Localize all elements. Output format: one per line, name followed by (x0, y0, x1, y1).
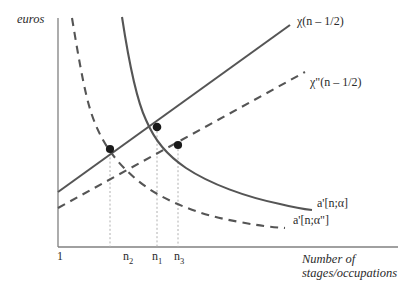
xtick-base-n1: n (152, 249, 158, 263)
curve-label-a-prime-alpha: a'[n;α] (317, 197, 348, 210)
x-axis-title: Number of stages/occupations (302, 252, 397, 280)
xtick-base-n2: n (123, 249, 129, 263)
xtick-label-n2: n2 (119, 250, 137, 266)
xtick-sub-n2: 2 (129, 256, 133, 266)
xtick-label-n3: n3 (170, 250, 188, 266)
economics-diagram: euros χ(n – 1/2) χ"(n – 1/2) a'[n;α] a'[… (0, 0, 410, 297)
curve-label-a-prime-alpha-double-prime: a'[n;α"] (293, 214, 329, 227)
curve-label-chi: χ(n – 1/2) (297, 15, 344, 28)
curve-chi (58, 25, 290, 192)
xtick-label-n1: n1 (148, 250, 166, 266)
x-axis-title-line2: stages/occupations (302, 266, 397, 280)
curve-chi-double-prime (58, 72, 305, 208)
intersection-dot-n1 (153, 123, 162, 132)
intersection-dot-n3 (174, 141, 182, 149)
xtick-sub-n1: 1 (158, 256, 162, 266)
x-axis-title-line1: Number of (302, 252, 397, 266)
xtick-base-1: 1 (57, 249, 63, 263)
curve-a-prime-alpha (122, 17, 312, 210)
xtick-sub-n3: 3 (180, 256, 184, 266)
y-axis-title: euros (17, 12, 44, 26)
intersection-dot-n2 (106, 145, 114, 153)
xtick-label-1: 1 (53, 250, 67, 266)
curve-label-chi-double-prime: χ"(n – 1/2) (310, 76, 362, 89)
xtick-base-n3: n (174, 249, 180, 263)
